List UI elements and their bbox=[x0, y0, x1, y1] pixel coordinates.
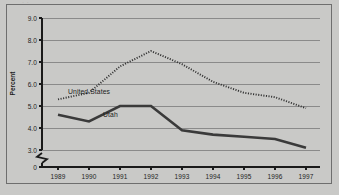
line-chart-svg bbox=[6, 4, 332, 184]
y-axis-tick-label: 5.0 bbox=[6, 103, 37, 110]
x-axis-tick-label: 1989 bbox=[51, 173, 66, 180]
x-axis-tick-label: 1993 bbox=[175, 173, 190, 180]
series-label-united-states: United States bbox=[68, 88, 110, 95]
y-axis-tick-label: 6.0 bbox=[6, 81, 37, 88]
y-axis-break-symbol bbox=[37, 153, 47, 163]
plot-area: Percent 03.04.05.06.07.08.09.0 198919901… bbox=[6, 4, 332, 184]
y-axis-tick-label: 4.0 bbox=[6, 125, 37, 132]
x-axis-tick-label: 1990 bbox=[82, 173, 97, 180]
y-axis-tick-label: 7.0 bbox=[6, 59, 37, 66]
x-axis-tick-label: 1997 bbox=[299, 173, 314, 180]
series-label-utah: Utah bbox=[103, 111, 118, 118]
series-line-united-states bbox=[58, 51, 306, 108]
series-line-utah bbox=[58, 106, 306, 148]
data-series bbox=[58, 51, 306, 148]
x-axis-tick-label: 1992 bbox=[144, 173, 159, 180]
y-axis-tick-label: 0 bbox=[6, 164, 37, 171]
y-axis-tick-label: 3.0 bbox=[6, 147, 37, 154]
x-axis-tick-label: 1991 bbox=[113, 173, 128, 180]
x-axis-tick-label: 1994 bbox=[206, 173, 221, 180]
chart-figure: · · Percent 03.04.05.06.07.08.09.0 19891… bbox=[0, 0, 339, 195]
x-axis-tick-label: 1996 bbox=[268, 173, 283, 180]
y-axis-tick-label: 9.0 bbox=[6, 15, 37, 22]
y-axis-tick-label: 8.0 bbox=[6, 37, 37, 44]
x-axis-tick-label: 1995 bbox=[237, 173, 252, 180]
